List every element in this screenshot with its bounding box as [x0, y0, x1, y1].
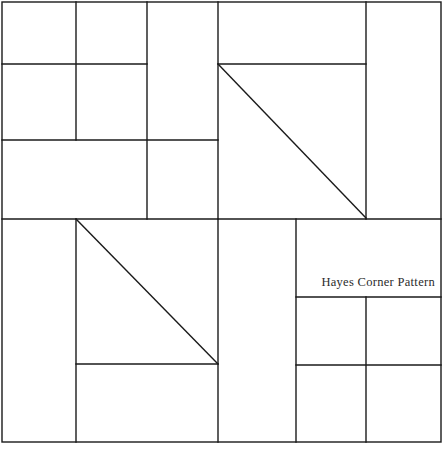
quilt-pattern-canvas: Hayes Corner Pattern	[0, 0, 443, 451]
quilt-pattern-drawing: Hayes Corner Pattern	[0, 0, 443, 451]
pattern-title-label: Hayes Corner Pattern	[321, 275, 435, 289]
